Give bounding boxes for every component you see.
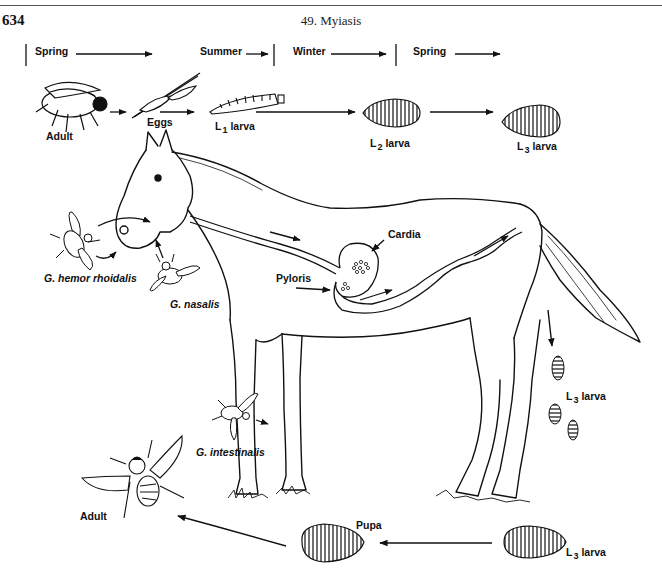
g-nasalis-fly-icon: [150, 254, 200, 291]
l1-larva-icon: [210, 94, 284, 114]
drop-arrow: [548, 310, 552, 346]
pyloris-pointer-arrow: [296, 288, 330, 290]
g-intestinalis-fly-icon: [212, 393, 258, 440]
adult-fly-icon: [36, 82, 107, 132]
grass-icon: [228, 486, 530, 502]
eggs-icon: [132, 73, 200, 118]
cardia-pointer-arrow: [372, 240, 384, 251]
life-cycle-diagram: [0, 0, 662, 578]
stomach-larvae: [341, 260, 369, 290]
horse-illustration: [116, 130, 640, 498]
l2-larva-icon: [363, 99, 420, 127]
dropped-l3-larvae-icons: [549, 356, 578, 440]
pupa-icon: [302, 524, 364, 562]
l3-larva-bottom-icon: [504, 526, 566, 558]
adult-fly-bottom-icon: [82, 436, 184, 518]
season-timeline: [26, 44, 500, 66]
digestive-tract: [190, 216, 522, 313]
g-hemorrhoidalis-fly-icon: [50, 212, 100, 270]
l3-larva-icon: [502, 105, 560, 137]
pupa-to-adult-arrow: [178, 516, 286, 546]
